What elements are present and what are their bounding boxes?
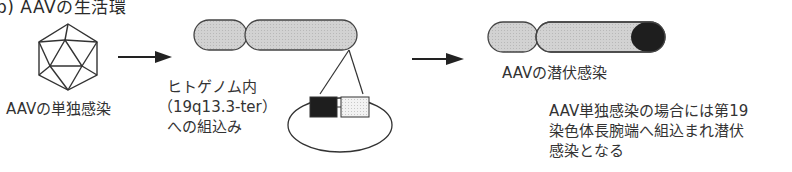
note-line-2: 染色体長腕端へ組込まれ潜伏 <box>549 122 744 141</box>
chromosome-latent-icon <box>488 22 665 52</box>
integration-label-line-1: ヒトゲノム内 <box>167 78 257 97</box>
integration-label-line-3: への組込み <box>167 118 242 137</box>
icosahedron-virus-icon <box>39 24 97 90</box>
aav-life-cycle-diagram <box>0 0 792 172</box>
single-infection-label: AAVの単独感染 <box>6 100 111 119</box>
latent-infection-label: AAVの潜伏感染 <box>502 64 607 83</box>
arrow-right-icon <box>412 53 464 65</box>
note-line-1: AAV単独感染の場合には第19 <box>549 102 748 121</box>
note-line-3: 感染となる <box>549 142 624 161</box>
integration-label-line-2: （19q13.3-ter） <box>158 98 277 117</box>
arrow-right-icon <box>118 51 172 63</box>
